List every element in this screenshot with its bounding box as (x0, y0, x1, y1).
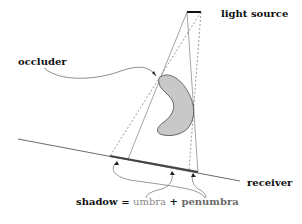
light-source-label: light source (221, 9, 288, 19)
penumbra-term: penumbra (181, 196, 238, 207)
occluder-shape (157, 75, 193, 136)
arrowhead-icon (114, 161, 119, 165)
shadow-pointer (113, 162, 205, 198)
equals-sign: = (118, 196, 133, 207)
plus-sign: + (166, 196, 181, 207)
shadow-equation: shadow = umbra + penumbra (76, 197, 239, 207)
shadow-band (110, 156, 198, 172)
umbra-pointer (146, 172, 172, 198)
arrowhead-icon (170, 171, 175, 175)
arrowhead-icon (191, 173, 196, 177)
shadow-diagram (0, 0, 302, 224)
ray-dashed-left (110, 12, 201, 156)
ray-dashed-right (189, 12, 201, 170)
receiver-label: receiver (247, 178, 292, 188)
occluder-pointer (44, 67, 156, 78)
umbra-term: umbra (133, 196, 166, 207)
ray-solid-right (187, 12, 198, 172)
shadow-term: shadow (76, 196, 118, 207)
penumbra-pointer (192, 174, 206, 198)
occluder-label: occluder (18, 57, 67, 67)
